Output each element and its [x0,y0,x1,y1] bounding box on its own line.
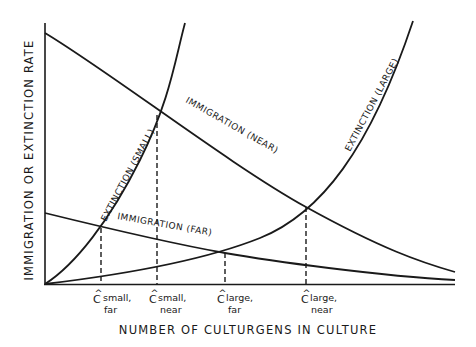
curve-extinction-large [45,21,413,284]
x-axis-label: NUMBER OF CULTURGENS IN CULTURE [119,323,377,337]
svg-text:large,: large, [310,292,337,303]
tick-small-near: ^ C small, near [149,287,186,315]
label-extinction-small: EXTINCTION (SMALL) [99,127,156,223]
svg-text:C: C [217,293,225,306]
island-biogeography-diagram: IMMIGRATION (NEAR) IMMIGRATION (FAR) EXT… [0,0,476,347]
svg-text:C: C [93,293,101,306]
y-axis-label: IMMIGRATION OR EXTINCTION RATE [22,40,36,281]
tick-large-near: ^ C large, near [301,287,337,315]
tick-small-far: ^ C small, far [93,287,131,315]
svg-text:small,: small, [103,292,131,303]
svg-text:C: C [149,293,157,306]
svg-text:near: near [311,304,333,315]
svg-text:far: far [104,304,117,315]
curve-extinction-small [45,23,185,284]
svg-text:small,: small, [158,292,186,303]
svg-text:large,: large, [226,292,253,303]
svg-text:C: C [301,293,309,306]
label-immigration-near: IMMIGRATION (NEAR) [184,95,280,155]
svg-text:near: near [160,304,182,315]
label-extinction-large: EXTINCTION (LARGE) [343,56,401,153]
tick-large-far: ^ C large, far [217,287,253,315]
svg-text:far: far [228,304,241,315]
